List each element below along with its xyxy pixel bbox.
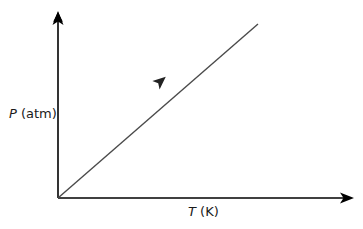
direction-arrow-icon bbox=[152, 73, 169, 90]
pt-chart: P (atm) T (K) bbox=[0, 0, 363, 229]
pt-line bbox=[58, 24, 258, 198]
y-axis-label: P (atm) bbox=[9, 106, 57, 121]
x-axis-label: T (K) bbox=[188, 204, 219, 219]
